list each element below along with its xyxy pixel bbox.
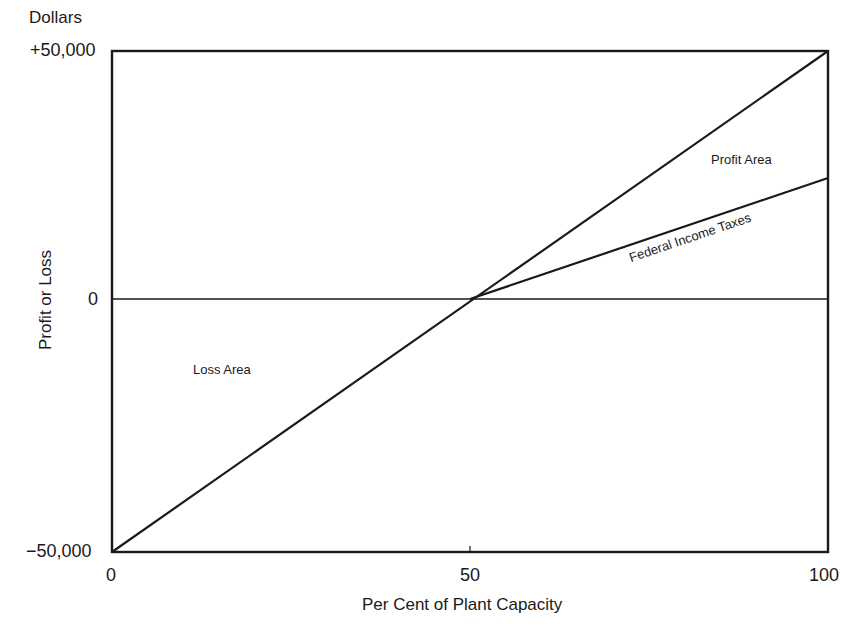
federal-income-taxes-line [470,178,828,299]
profit-area-label: Profit Area [711,152,772,167]
profit-loss-line [112,51,828,552]
loss-area-label: Loss Area [193,362,251,377]
plot-area [0,0,865,637]
